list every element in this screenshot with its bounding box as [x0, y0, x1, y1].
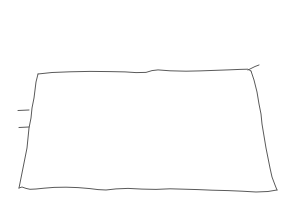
tick-spur-lower — [19, 127, 29, 128]
canvas-background — [0, 0, 293, 220]
tick-spur-upper — [18, 110, 29, 111]
sketch-svg — [0, 0, 293, 220]
sketch-canvas — [0, 0, 293, 220]
